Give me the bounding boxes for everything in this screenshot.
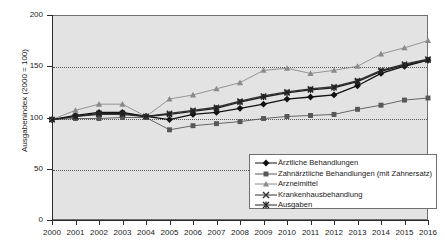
legend-marker-diamond-icon (254, 158, 278, 168)
legend-marker-square-icon (254, 169, 278, 179)
legend-item-arzneimittel: Arzneimittel (254, 179, 432, 189)
legend-label: Krankenhausbehandlung (278, 190, 362, 200)
legend-label: Arzneimittel (278, 179, 318, 189)
x-tick (240, 221, 241, 225)
x-tick (76, 221, 77, 225)
x-tick (52, 221, 53, 225)
legend-label: Ärztliche Behandlungen (278, 158, 358, 168)
y-tick (47, 118, 52, 119)
legend-item-arztliche-behandlungen: Ärztliche Behandlungen (254, 158, 432, 168)
legend-marker-asterisk-icon (254, 200, 278, 210)
legend-marker-triangle-icon (254, 179, 278, 189)
x-tick (123, 221, 124, 225)
x-tick (358, 221, 359, 225)
legend-item-zahnarztliche-behandlungen: Zahnärztliche Behandlungen (mit Zahnersa… (254, 169, 432, 179)
chart-root: 050100150200 200020012002200320042005200… (0, 0, 445, 246)
y-tick (47, 169, 52, 170)
x-tick (405, 221, 406, 225)
x-tick-label: 2016 (413, 228, 443, 237)
legend-label: Ausgaben (278, 200, 312, 210)
x-tick (217, 221, 218, 225)
x-tick (287, 221, 288, 225)
legend-item-ausgaben: Ausgaben (254, 200, 432, 210)
x-tick (146, 221, 147, 225)
x-tick (264, 221, 265, 225)
y-tick-label: 0 (13, 216, 43, 224)
x-tick (334, 221, 335, 225)
y-axis-line (52, 15, 53, 221)
y-axis-title: Ausgabenindex (2000 = 100) (20, 26, 29, 176)
x-tick (428, 221, 429, 225)
x-tick (381, 221, 382, 225)
y-tick (47, 15, 52, 16)
y-tick-label: 200 (13, 11, 43, 19)
chart-legend: Ärztliche Behandlungen Zahnärztliche Beh… (249, 154, 437, 209)
x-tick (99, 221, 100, 225)
x-tick (311, 221, 312, 225)
legend-item-krankenhausbehandlung: Krankenhausbehandlung (254, 190, 432, 200)
y-tick (47, 66, 52, 67)
gridline-150 (53, 67, 427, 68)
x-tick (193, 221, 194, 225)
gridline-100 (53, 119, 427, 120)
legend-label: Zahnärztliche Behandlungen (mit Zahnersa… (278, 169, 432, 179)
legend-marker-cross-icon (254, 190, 278, 200)
x-tick (170, 221, 171, 225)
